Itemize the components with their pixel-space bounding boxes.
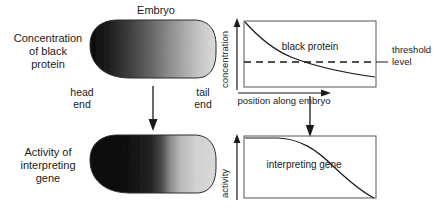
plot-frame-top — [244, 21, 376, 87]
annotation-black-protein: black protein — [282, 41, 339, 52]
y-axis-label-activity: activity — [219, 169, 230, 198]
arrow-embryo-to-embryo — [138, 86, 168, 132]
chart-black-protein-concentration: concentration black protein threshold le… — [216, 12, 435, 106]
label-embryo: Embryo — [96, 4, 216, 17]
x-axis-label-position: position along embryo — [238, 95, 331, 106]
chart-interpreting-gene-activity: activity interpreting gene — [216, 112, 435, 209]
y-axis-arrow-activity — [234, 134, 241, 200]
embryo-bottom-gene-activity — [88, 133, 218, 195]
embryo-morphogen-gradient-figure: Concentration of black protein Activity … — [0, 0, 435, 209]
embryo-top-protein-gradient — [88, 18, 218, 80]
label-concentration-of-black-protein: Concentration of black protein — [2, 32, 94, 71]
annotation-interpreting-gene: interpreting gene — [266, 159, 341, 170]
y-axis-label-concentration: concentration — [219, 31, 230, 88]
label-activity-of-interpreting-gene: Activity of interpreting gene — [2, 146, 94, 185]
y-axis-arrow-concentration — [234, 18, 241, 90]
label-head-end: head end — [60, 86, 104, 111]
threshold-label: threshold level — [392, 44, 434, 67]
